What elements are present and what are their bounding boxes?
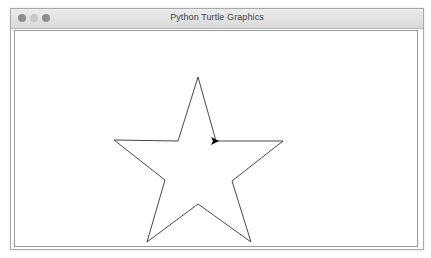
star-shape xyxy=(114,77,283,242)
drawing-layer xyxy=(0,0,431,258)
